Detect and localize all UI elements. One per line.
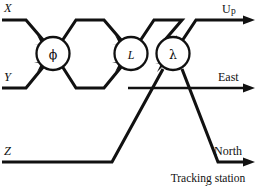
arrowhead-up-output — [243, 16, 255, 25]
wire-x-to-phi — [2, 20, 44, 41]
node-phi: ϕ — [37, 37, 70, 70]
node-l: L — [115, 37, 148, 70]
input-label-y: Y — [4, 70, 13, 84]
node-lambda: λ — [157, 37, 190, 70]
caption-line-2: coordinates — [181, 184, 235, 186]
output-label-up-main: U — [222, 2, 231, 16]
output-label-up: U p — [222, 2, 236, 16]
output-label-east: East — [218, 70, 239, 84]
output-label-north: North — [214, 144, 242, 158]
node-lambda-label: λ — [169, 47, 177, 62]
tracking-station-diagram: ϕ L λ X Y Z U p East North Tracking stat… — [0, 0, 259, 186]
node-phi-label: ϕ — [49, 47, 58, 62]
wire-phi-to-l-lower — [62, 66, 122, 88]
node-l-label: L — [127, 48, 135, 62]
wire-lambda-to-up — [182, 20, 246, 41]
wire-phi-to-l-upper — [62, 20, 122, 41]
input-label-z: Z — [4, 144, 12, 158]
output-label-up-sub: p — [231, 6, 236, 16]
arrowhead-east-output — [243, 84, 255, 93]
arrowhead-north-output — [243, 158, 255, 167]
wire-z-to-lambda — [2, 69, 163, 162]
diagram-canvas: ϕ L λ X Y Z U p East North Tracking stat… — [0, 0, 259, 186]
input-label-x: X — [3, 1, 13, 15]
